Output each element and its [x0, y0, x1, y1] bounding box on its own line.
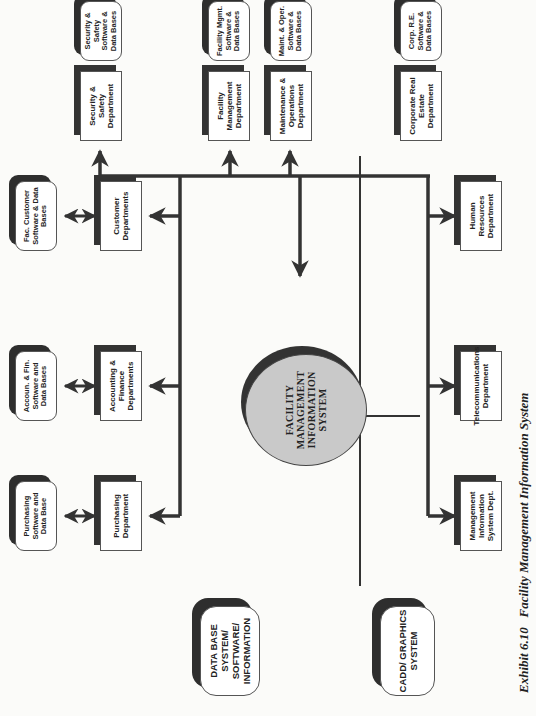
dept-maintenance: Maintenance & Operations Department: [270, 71, 312, 141]
dept-mis: Management Information System Dept.: [460, 481, 502, 551]
dept-customer: Customer Departments: [100, 181, 142, 251]
software-purchasing: Purchasing Software and Data Base: [15, 481, 57, 551]
dept-telecom: Telecommunications Department: [460, 351, 502, 421]
system-cadd: CADD/ GRAPHICS SYSTEM: [380, 606, 435, 696]
fmis-hub: FACILITY MANAGEMENT INFORMATION SYSTEM: [245, 354, 367, 466]
dept-real-estate: Corporate Real Estate Department: [400, 71, 442, 141]
dept-facility: Facility Management Department: [208, 71, 250, 141]
software-real-estate: Corp. R.E. Software & Data Bases: [400, 1, 442, 61]
exhibit-caption: Exhibit 6.10 Facility Management Informa…: [500, 393, 536, 707]
software-security: Security & Safety Software & Data Bases: [80, 1, 122, 61]
dept-accounting: Accounting & Finance Departments: [100, 351, 142, 421]
system-database: DATA BASE SYSTEM/ SOFTWARE/ INFORMATION: [200, 606, 260, 696]
exhibit-number: Exhibit 6.10: [516, 627, 531, 693]
software-accounting: Accoun. & Fin. Software and Data Bases: [15, 351, 57, 421]
software-facility: Facility Mgmt. Software & Data Bases: [208, 1, 250, 61]
dept-purchasing: Purchasing Department: [100, 481, 142, 551]
dept-security: Security & Safety Department: [80, 71, 122, 141]
exhibit-title: Facility Management Information System: [516, 393, 531, 618]
dept-hr: Human Resources Department: [460, 181, 502, 251]
software-customer: Fac. Customer Software & Data Bases: [15, 181, 57, 251]
software-maintenance: Maint. & Oper. Software & Data Bases: [270, 1, 312, 61]
